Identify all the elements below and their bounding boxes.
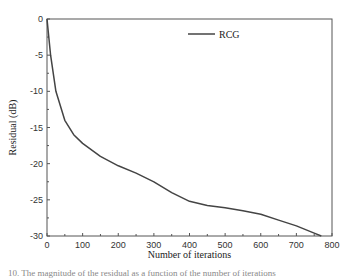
legend-label: RCG <box>219 29 240 40</box>
caption: 10. The magnitude of the residual as a f… <box>8 268 276 278</box>
x-axis-label: Number of iterations <box>148 249 231 260</box>
x-tick-label: 800 <box>324 240 339 250</box>
y-axis-label: Residual (dB) <box>7 100 19 156</box>
y-tick-label: -20 <box>30 159 43 169</box>
chart: 01002003004005006007008000-5-10-15-20-25… <box>0 0 353 280</box>
x-tick-label: 700 <box>289 240 304 250</box>
y-tick-label: -30 <box>30 231 43 241</box>
series-line-rcg <box>47 19 321 236</box>
y-tick-label: -10 <box>30 86 43 96</box>
x-tick-label: 200 <box>111 240 126 250</box>
x-tick-label: 0 <box>44 240 49 250</box>
x-tick-label: 100 <box>75 240 90 250</box>
y-tick-label: -5 <box>35 50 43 60</box>
y-tick-label: 0 <box>38 14 43 24</box>
plot-frame <box>47 19 332 236</box>
y-tick-label: -25 <box>30 195 43 205</box>
y-tick-label: -15 <box>30 123 43 133</box>
x-tick-label: 600 <box>253 240 268 250</box>
plot-area: 01002003004005006007008000-5-10-15-20-25… <box>0 0 353 280</box>
